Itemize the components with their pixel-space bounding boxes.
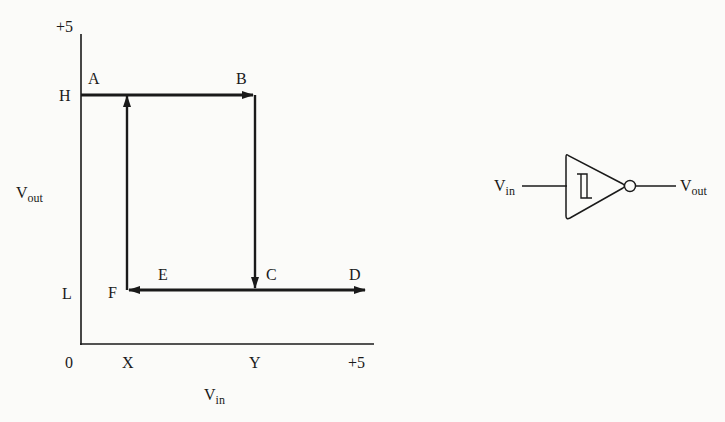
x-tick-x: X — [122, 354, 134, 371]
gate-input-label: Vin — [494, 177, 515, 198]
hysteresis-glyph-icon — [577, 174, 592, 198]
x-tick-y: Y — [249, 354, 261, 371]
y-top-tick: +5 — [56, 18, 73, 35]
point-a: A — [88, 70, 100, 87]
hysteresis-diagram: +5 H L Vout 0 X Y +5 Vin A B C D E F Vin… — [0, 0, 725, 422]
point-b: B — [236, 70, 247, 87]
point-c: C — [266, 266, 277, 283]
y-low-label: L — [62, 285, 72, 302]
gate-triangle-icon — [566, 155, 625, 219]
x-origin: 0 — [65, 354, 73, 371]
x-right-tick: +5 — [348, 354, 365, 371]
schmitt-inverter-symbol: Vin Vout — [494, 155, 708, 219]
point-e: E — [158, 266, 168, 283]
point-d: D — [349, 266, 361, 283]
y-axis-title: Vout — [16, 184, 44, 205]
gate-output-label: Vout — [680, 177, 708, 198]
y-high-label: H — [59, 87, 71, 104]
point-f: F — [108, 284, 117, 301]
x-axis-title: Vin — [204, 386, 225, 407]
inversion-bubble-icon — [625, 181, 636, 192]
